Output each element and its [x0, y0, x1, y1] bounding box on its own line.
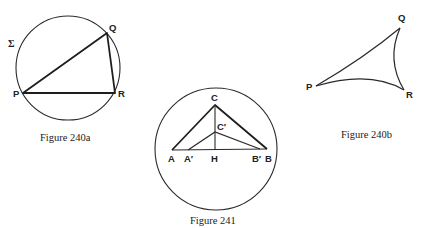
caption-240a: Figure 240a [40, 132, 91, 143]
arc-pr [316, 79, 404, 90]
arc-pq [316, 28, 400, 86]
label-b-prime: B′ [252, 153, 262, 164]
figure-241: C C′ A A′ H B′ B Figure 241 [155, 88, 277, 226]
figure-240b: P Q R Figure 240b [306, 12, 413, 140]
figure-240a: Σ P Q R Figure 240a [8, 16, 125, 143]
label-h: H [211, 153, 218, 164]
figures-canvas: Σ P Q R Figure 240a P Q R Figure 240b C … [0, 0, 425, 228]
label-b: B [265, 153, 272, 164]
segment-ab [172, 149, 267, 150]
circle-sigma [16, 16, 120, 120]
label-p: P [13, 88, 20, 99]
label-a: A [168, 153, 175, 164]
label-a-prime: A′ [184, 153, 194, 164]
label-p: P [306, 81, 313, 92]
caption-241: Figure 241 [190, 215, 236, 226]
label-q: Q [109, 22, 116, 33]
arc-qr [394, 28, 404, 90]
caption-240b: Figure 240b [341, 129, 392, 140]
triangle-pqr [23, 33, 115, 93]
label-r: R [406, 89, 413, 100]
label-r: R [118, 88, 125, 99]
label-c: C [211, 92, 218, 103]
label-q: Q [398, 12, 405, 23]
label-sigma: Σ [8, 38, 15, 49]
label-c-prime: C′ [217, 121, 227, 132]
